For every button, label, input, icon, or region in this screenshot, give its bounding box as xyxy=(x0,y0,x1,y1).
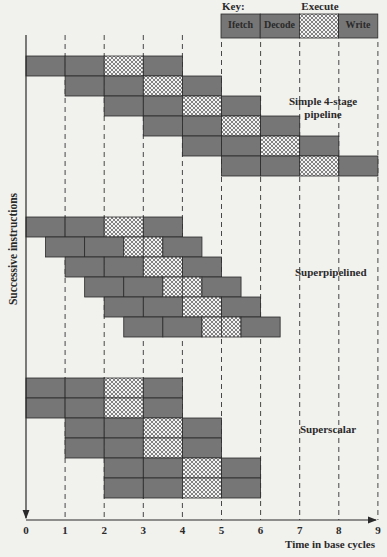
y-axis-label: Successive instructions xyxy=(7,179,19,319)
ifetch-stage xyxy=(85,277,124,297)
ifetch-stage xyxy=(65,438,104,458)
x-tick-label: 8 xyxy=(334,524,344,536)
write-stage xyxy=(222,458,261,478)
execute-stage xyxy=(182,458,221,478)
decode-stage xyxy=(65,378,104,398)
x-tick-label: 6 xyxy=(256,524,266,536)
decode-stage xyxy=(163,317,202,337)
execute-stage xyxy=(300,156,339,176)
section-label-line2: pipeline xyxy=(288,108,358,121)
write-stage xyxy=(222,297,261,317)
section-label-simple-pipeline: Simple 4-stage pipeline xyxy=(288,95,358,121)
write-stage xyxy=(300,136,339,156)
decode-stage xyxy=(104,438,143,458)
decode-stage xyxy=(143,458,182,478)
x-tick-label: 2 xyxy=(99,524,109,536)
decode-stage xyxy=(65,398,104,418)
ifetch-stage xyxy=(46,237,85,257)
execute-stage xyxy=(143,438,182,458)
key-execute-label: Execute xyxy=(290,0,350,12)
write-stage xyxy=(222,478,261,498)
x-tick-label: 1 xyxy=(60,524,70,536)
section-label-superscalar: Superscalar xyxy=(300,423,356,435)
key-cell-write: Write xyxy=(338,19,378,30)
write-stage xyxy=(163,237,202,257)
x-tick-label: 3 xyxy=(138,524,148,536)
key-cell-ifetch: Ifetch xyxy=(221,19,260,30)
execute-stage xyxy=(143,76,182,96)
decode-stage xyxy=(124,277,163,297)
ifetch-stage xyxy=(26,56,65,76)
decode-stage xyxy=(65,217,104,237)
ifetch-stage xyxy=(143,116,182,136)
write-stage xyxy=(143,398,182,418)
x-axis-label: Time in base cycles xyxy=(285,538,375,550)
decode-stage xyxy=(104,257,143,277)
write-stage xyxy=(143,378,182,398)
ifetch-stage xyxy=(124,317,163,337)
section-label-line1: Simple 4-stage xyxy=(288,95,358,108)
decode-stage xyxy=(182,116,221,136)
ifetch-stage xyxy=(222,156,261,176)
execute-stage xyxy=(104,378,143,398)
execute-stage xyxy=(182,96,221,116)
key-cell xyxy=(299,14,338,38)
execute-stage xyxy=(104,56,143,76)
pipeline-diagram xyxy=(0,0,387,557)
ifetch-stage xyxy=(104,458,143,478)
write-stage xyxy=(143,56,182,76)
ifetch-stage xyxy=(65,257,104,277)
write-stage xyxy=(222,96,261,116)
execute-stage xyxy=(104,398,143,418)
write-stage xyxy=(202,277,241,297)
decode-stage xyxy=(261,156,300,176)
x-tick-label: 4 xyxy=(177,524,187,536)
ifetch-stage xyxy=(65,76,104,96)
ifetch-stage xyxy=(104,478,143,498)
section-label-superpipelined: Superpipelined xyxy=(295,266,367,278)
decode-stage xyxy=(104,76,143,96)
decode-stage xyxy=(85,237,124,257)
ifetch-stage xyxy=(104,96,143,116)
key-cell-decode: Decode xyxy=(260,19,299,30)
execute-stage xyxy=(143,257,182,277)
write-stage xyxy=(182,438,221,458)
ifetch-stage xyxy=(104,297,143,317)
execute-stage xyxy=(182,478,221,498)
execute-stage xyxy=(182,297,221,317)
write-stage xyxy=(241,317,280,337)
ifetch-stage xyxy=(65,418,104,438)
ifetch-stage xyxy=(26,398,65,418)
ifetch-stage xyxy=(26,378,65,398)
execute-stage xyxy=(261,136,300,156)
key-title: Key: xyxy=(222,0,245,12)
execute-stage xyxy=(222,116,261,136)
decode-stage xyxy=(143,478,182,498)
execute-stage xyxy=(104,217,143,237)
decode-stage xyxy=(143,297,182,317)
write-stage xyxy=(182,418,221,438)
decode-stage xyxy=(65,56,104,76)
write-stage xyxy=(143,217,182,237)
x-tick-label: 5 xyxy=(217,524,227,536)
x-tick-label: 7 xyxy=(295,524,305,536)
write-stage xyxy=(182,257,221,277)
decode-stage xyxy=(104,418,143,438)
decode-stage xyxy=(143,96,182,116)
ifetch-stage xyxy=(26,217,65,237)
x-tick-label: 9 xyxy=(373,524,383,536)
write-stage xyxy=(339,156,378,176)
x-tick-label: 0 xyxy=(21,524,31,536)
execute-stage xyxy=(143,418,182,438)
ifetch-stage xyxy=(182,136,221,156)
decode-stage xyxy=(222,136,261,156)
write-stage xyxy=(182,76,221,96)
